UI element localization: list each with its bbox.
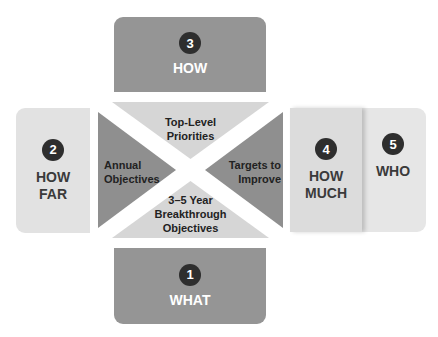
label-line: Objectives xyxy=(144,221,237,235)
label-what: WHAT xyxy=(170,292,211,309)
number-badge-2: 2 xyxy=(42,139,64,161)
box-how-much: 4 HOW MUCH xyxy=(290,108,362,232)
label-how: HOW xyxy=(173,60,207,77)
label-top-level-priorities: Top-Level Priorities xyxy=(150,115,231,143)
label-line: Top-Level xyxy=(150,115,231,129)
label-line: FAR xyxy=(36,186,70,203)
label-line: Priorities xyxy=(150,129,231,143)
label-targets-to-improve: Targets to Improve xyxy=(213,158,281,186)
label-line: Targets to xyxy=(213,158,281,172)
number-badge-4: 4 xyxy=(315,138,337,160)
number-badge-5: 5 xyxy=(382,133,404,155)
label-annual-objectives: Annual Objectives xyxy=(104,158,168,186)
label-line: Objectives xyxy=(104,172,168,186)
box-how-far: 2 HOW FAR xyxy=(16,108,90,233)
label-line: 3–5 Year xyxy=(144,193,237,207)
label-line: HOW xyxy=(305,168,347,185)
number-badge-3: 3 xyxy=(179,32,201,54)
label-line: Breakthrough xyxy=(144,207,237,221)
label-who: WHO xyxy=(376,163,410,180)
label-how-far: HOW FAR xyxy=(36,169,70,203)
box-what: 1 WHAT xyxy=(114,248,266,324)
label-how-much: HOW MUCH xyxy=(305,168,347,202)
box-who: 5 WHO xyxy=(352,108,426,232)
label-line: HOW xyxy=(36,169,70,186)
number-badge-1: 1 xyxy=(179,264,201,286)
label-line: MUCH xyxy=(305,185,347,202)
label-breakthrough-objectives: 3–5 Year Breakthrough Objectives xyxy=(144,193,237,235)
box-how: 3 HOW xyxy=(114,17,266,92)
x-matrix: Top-Level Priorities Annual Objectives T… xyxy=(98,102,283,238)
label-line: Improve xyxy=(213,172,281,186)
label-line: Annual xyxy=(104,158,168,172)
